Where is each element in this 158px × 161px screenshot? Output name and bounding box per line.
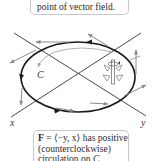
curve-label-c: C [37, 69, 44, 80]
callout-line-3-suffix: . [99, 154, 101, 161]
callout-line-3-prefix: circulation on [38, 154, 93, 161]
vector-field-definition: = ⟨−y, x⟩ has positive [44, 133, 128, 143]
callout-line-2: (counterclockwise) [38, 144, 128, 155]
inner-rotation-arrow [38, 48, 112, 67]
axes [11, 33, 146, 117]
y-axis-line [14, 33, 146, 116]
callout-line-1: F = ⟨−y, x⟩ has positive [38, 133, 128, 144]
curve-arrowhead-left [19, 74, 24, 80]
paddle-wheel-icon [103, 60, 123, 84]
callout-line-3: circulation on C. [38, 154, 128, 161]
curve-arrowhead-top [86, 40, 92, 45]
bottom-callout-box: F = ⟨−y, x⟩ has positive (counterclockwi… [33, 130, 129, 161]
y-axis-label: y [141, 117, 145, 128]
vector-field-arrows [10, 34, 146, 111]
x-axis-label: x [10, 117, 14, 128]
